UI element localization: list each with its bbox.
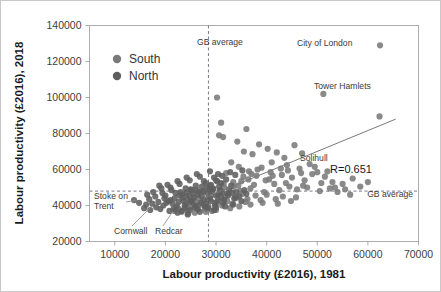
scatter-point [264, 192, 270, 198]
y-tick-label: 20000 [52, 235, 81, 247]
scatter-point [298, 170, 304, 176]
scatter-point [150, 189, 156, 195]
scatter-point [357, 184, 363, 190]
scatter-point [174, 178, 180, 184]
x-tick-label: 10000 [100, 248, 129, 260]
y-tick-label: 40000 [52, 199, 81, 211]
scatter-chart: 20000400006000080000100000120000140000 1… [1, 1, 441, 292]
scatter-point [332, 184, 338, 190]
tower-hamlets-label: Tower Hamlets [314, 81, 371, 91]
scatter-point [252, 193, 258, 199]
scatter-point [241, 187, 247, 193]
y-axis-title: Labour productivity (£2016), 2018 [13, 41, 25, 224]
scatter-point [239, 167, 245, 173]
scatter-point [293, 194, 299, 200]
scatter-point [294, 186, 300, 192]
x-tick-label: 20000 [151, 248, 180, 260]
scatter-point [276, 187, 282, 193]
scatter-point [377, 42, 383, 48]
scatter-point [271, 181, 277, 187]
scatter-point [157, 206, 163, 212]
scatter-point [275, 201, 281, 207]
scatter-point [274, 149, 280, 155]
scatter-point [256, 141, 262, 147]
scatter-point [241, 148, 247, 154]
scatter-point [285, 167, 291, 173]
scatter-point [174, 210, 180, 216]
scatter-point [220, 134, 226, 140]
cornwall-label: Cornwall [114, 226, 148, 236]
scatter-point [320, 91, 326, 97]
scatter-point [247, 202, 253, 208]
chart-figure: 20000400006000080000100000120000140000 1… [0, 0, 441, 292]
scatter-point [347, 192, 353, 198]
scatter-point [318, 180, 324, 186]
legend-marker-south [113, 55, 121, 63]
scatter-point [269, 159, 275, 165]
scatter-point [254, 166, 260, 172]
x-axis-title: Labour productivity (£2016), 1981 [163, 268, 346, 280]
scatter-point [249, 151, 255, 157]
scatter-point [309, 171, 315, 177]
scatter-point [234, 139, 240, 145]
legend-label-south: South [129, 52, 160, 66]
x-tick-label: 40000 [252, 248, 281, 260]
scatter-point [288, 198, 294, 204]
scatter-point [243, 126, 249, 132]
scatter-point [227, 169, 233, 175]
scatter-point [329, 179, 335, 185]
stoke-on-trent-label-line2: Trent [94, 201, 114, 211]
scatter-point [155, 199, 161, 205]
x-tick-label: 50000 [303, 248, 332, 260]
x-tick-label: 70000 [404, 248, 433, 260]
x-axis: 10000200003000040000500006000070000 [100, 242, 433, 260]
scatter-point [184, 175, 190, 181]
y-tick-label: 80000 [52, 127, 81, 139]
scatter-point [350, 175, 356, 181]
scatter-point [247, 185, 253, 191]
scatter-point [218, 120, 224, 126]
y-tick-label: 120000 [46, 55, 81, 67]
scatter-point [312, 164, 318, 170]
x-tick-label: 30000 [201, 248, 230, 260]
x-tick-label: 60000 [353, 248, 382, 260]
scatter-point [185, 211, 191, 217]
scatter-point [144, 192, 150, 198]
scatter-point [171, 195, 177, 201]
scatter-point [180, 192, 186, 198]
correlation-label: R=0.651 [330, 163, 372, 175]
scatter-point [228, 159, 234, 165]
y-tick-label: 60000 [52, 163, 81, 175]
redcar-label: Redcar [155, 226, 183, 236]
scatter-point [365, 179, 371, 185]
scatter-point [300, 183, 306, 189]
scatter-point [260, 200, 266, 206]
scatter-point [283, 180, 289, 186]
scatter-point [281, 155, 287, 161]
scatter-point [213, 204, 219, 210]
scatter-point [270, 173, 276, 179]
scatter-point [156, 183, 162, 189]
scatter-point [194, 171, 200, 177]
solihull-label: Solihull [300, 153, 328, 163]
y-tick-label: 100000 [46, 91, 81, 103]
scatter-point [280, 193, 286, 199]
scatter-point [188, 198, 194, 204]
scatter-point [342, 186, 348, 192]
scatter-point [248, 171, 254, 177]
scatter-point [236, 193, 242, 199]
scatter-point [230, 202, 236, 208]
scatter-point [317, 188, 323, 194]
scatter-point [263, 177, 269, 183]
scatter-point [222, 203, 228, 209]
scatter-point [207, 168, 213, 174]
scatter-point [279, 172, 285, 178]
scatter-point [205, 205, 211, 211]
scatter-point [193, 183, 199, 189]
scatter-point [339, 181, 345, 187]
scatter-point [214, 94, 220, 100]
gb-average-vertical-label: GB average [197, 37, 243, 47]
city-of-london-label: City of London [297, 38, 353, 48]
scatter-point [224, 191, 230, 197]
scatter-point [195, 206, 201, 212]
